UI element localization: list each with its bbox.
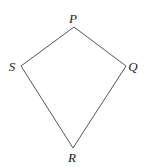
kite-diagram: P Q R S [0,0,148,167]
vertex-label-r: R [67,150,76,165]
vertex-label-q: Q [128,59,138,74]
kite-shape [21,27,126,148]
vertex-label-p: P [68,11,77,26]
diagram-svg: P Q R S [0,0,148,167]
vertex-label-s: S [9,59,16,74]
